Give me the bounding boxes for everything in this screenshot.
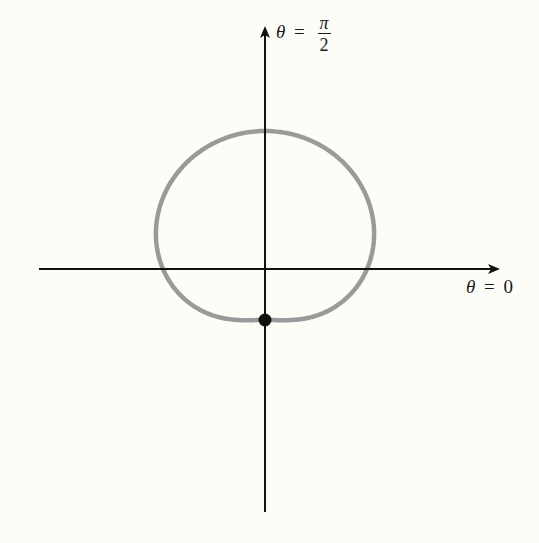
equals-sign: =: [484, 276, 495, 297]
fraction-denominator: 2: [320, 34, 329, 54]
marked-point-dot: [259, 314, 272, 327]
zero-value: 0: [504, 276, 514, 297]
theta-symbol: θ: [276, 21, 285, 42]
pi-over-2-fraction: π 2: [318, 14, 331, 54]
fraction-numerator: π: [318, 14, 331, 34]
polar-plot: [0, 0, 539, 543]
theta-symbol: θ: [466, 276, 475, 297]
equals-sign: =: [294, 21, 305, 42]
y-axis-label: θ = π 2: [276, 14, 331, 54]
x-axis-label: θ = 0: [466, 276, 513, 298]
polar-figure: θ = π 2 θ = 0: [0, 0, 539, 543]
